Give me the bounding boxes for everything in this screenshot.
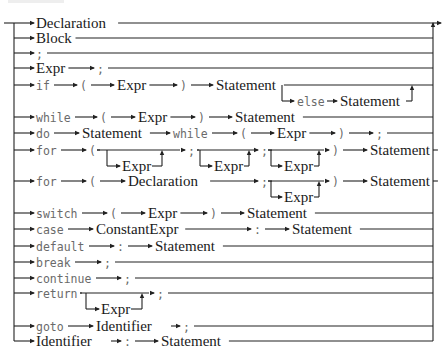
keyword-label: ; [104, 256, 111, 270]
arrow-right-icon [110, 83, 115, 87]
arrow-right-icon [173, 83, 178, 87]
row-if: if(Expr)StatementelseStatement [14, 77, 433, 109]
nonterminal-label: Block [36, 30, 72, 46]
arrow-right-icon [30, 179, 35, 183]
row-case: caseConstantExpr:Statement [14, 221, 433, 237]
arrow-up-icon [160, 150, 164, 155]
arrow-right-icon [176, 324, 181, 328]
keyword-label: : [117, 240, 124, 254]
arrow-right-icon [148, 244, 153, 248]
nonterminal-label: Statement [161, 333, 222, 349]
keyword-label: ; [261, 144, 268, 158]
nonterminal-label: Statement [370, 173, 431, 189]
arrow-right-icon [30, 21, 35, 25]
nonterminal-label: Declaration [128, 173, 198, 189]
keyword-label: : [124, 335, 131, 349]
arrow-right-icon [240, 211, 245, 215]
keyword-label: ( [89, 144, 96, 158]
keyword-label: ( [110, 207, 117, 221]
arrow-right-icon [30, 244, 35, 248]
arrow-right-icon [209, 83, 214, 87]
arrow-right-icon [228, 115, 233, 119]
arrow-right-icon [191, 115, 196, 119]
arrow-right-icon [363, 179, 368, 183]
row-continue: continue; [14, 272, 433, 286]
arrow-right-icon [117, 276, 122, 280]
nonterminal-label: Identifier [36, 333, 92, 349]
keyword-label: while [173, 127, 208, 141]
arrow-up-icon [410, 85, 414, 90]
arrow-right-icon [121, 179, 126, 183]
keyword-label: continue [36, 272, 91, 286]
keyword-label: : [254, 223, 261, 237]
keyword-label: for [36, 175, 57, 189]
nonterminal-label: Expr [138, 109, 167, 125]
arrow-right-icon [117, 339, 122, 343]
optional-expr-label: Expr [214, 158, 243, 174]
row-declaration: Declaration [14, 15, 433, 31]
row-for-expr: for(Expr;Expr;Expr)Statement [14, 142, 438, 174]
arrow-up-icon [140, 293, 144, 298]
arrow-right-icon [437, 21, 442, 25]
arrow-right-icon [325, 148, 330, 152]
nonterminal-label: Identifier [96, 318, 152, 334]
nonterminal-label: Statement [82, 125, 143, 141]
else-statement-label: Statement [340, 93, 401, 109]
statement-railroad-diagram: DeclarationBlock;Expr;if(Expr)Statemente… [0, 0, 442, 358]
keyword-label: ; [36, 47, 43, 61]
arrow-right-icon [254, 179, 259, 183]
row-do: doStatementwhile(Expr); [14, 125, 433, 141]
keyword-label: default [36, 240, 84, 254]
arrow-right-icon [95, 307, 100, 311]
keyword-label: ; [157, 287, 164, 301]
arrow-right-icon [30, 211, 35, 215]
arrow-right-icon [89, 324, 94, 328]
nonterminal-label: Statement [370, 142, 431, 158]
keyword-label: ) [338, 127, 345, 141]
row-break: break; [14, 256, 433, 270]
arrow-right-icon [270, 131, 275, 135]
arrow-right-icon [30, 36, 35, 40]
arrow-right-icon [110, 244, 115, 248]
keyword-label: break [36, 256, 71, 270]
arrow-right-icon [333, 99, 338, 103]
arrow-right-icon [150, 291, 155, 295]
arrow-right-icon [82, 179, 87, 183]
nonterminal-label: Statement [247, 205, 308, 221]
keyword-label: ; [183, 320, 190, 334]
arrow-right-icon [30, 115, 35, 119]
keyword-label: ) [198, 111, 205, 125]
row-while: while(Expr)Statement [14, 109, 433, 125]
row-goto: gotoIdentifier; [14, 318, 433, 334]
optional-expr-label: Expr [122, 158, 151, 174]
keyword-label: ( [240, 127, 247, 141]
keyword-label: return [36, 287, 78, 301]
nonterminal-label: Declaration [36, 15, 106, 31]
keyword-label: ; [376, 127, 383, 141]
keyword-label: ; [97, 62, 104, 76]
arrow-right-icon [203, 211, 208, 215]
keyword-label: ; [261, 175, 268, 189]
arrow-right-icon [116, 164, 121, 168]
optional-expr-label: Expr [284, 158, 313, 174]
row-label: Identifier:Statement [14, 333, 433, 349]
arrow-up-icon [317, 181, 321, 186]
nonterminal-label: Statement [216, 77, 277, 93]
arrow-right-icon [30, 51, 35, 55]
keyword-label: do [36, 127, 50, 141]
arrow-right-icon [254, 148, 259, 152]
keyword-label: ; [124, 272, 131, 286]
nonterminal-label: Statement [235, 109, 296, 125]
arrow-right-icon [369, 131, 374, 135]
arrow-right-icon [208, 164, 213, 168]
row-return: returnExpr; [14, 287, 433, 317]
arrow-right-icon [166, 131, 171, 135]
arrow-right-icon [30, 148, 35, 152]
arrow-right-icon [131, 115, 136, 119]
arrow-right-icon [30, 276, 35, 280]
arrow-right-icon [233, 131, 238, 135]
nonterminal-label: ConstantExpr [96, 221, 179, 237]
keyword-label: ) [332, 144, 339, 158]
nonterminal-label: Expr [277, 125, 306, 141]
else-keyword: else [297, 95, 325, 109]
